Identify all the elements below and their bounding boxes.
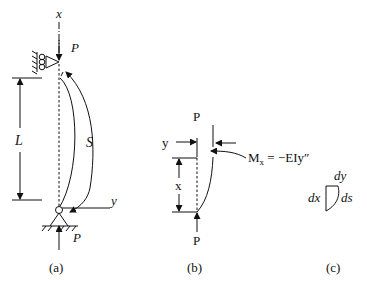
top-load-label: P xyxy=(70,40,79,55)
arc-length-label: S xyxy=(86,135,93,150)
moment-equation: Mx = −EIy″ xyxy=(248,150,309,167)
deflected-column xyxy=(59,78,75,208)
caption-a: (a) xyxy=(49,260,63,275)
length-label: L xyxy=(14,133,23,148)
x-axis-label: x xyxy=(55,6,62,21)
dy-label: dy xyxy=(334,168,347,183)
top-tick xyxy=(61,72,63,76)
moment-arrow xyxy=(211,151,246,158)
y-axis-label: y xyxy=(109,193,117,208)
ds-label: ds xyxy=(341,190,353,205)
caption-c: (c) xyxy=(326,260,340,275)
roller-support-icon xyxy=(32,51,59,74)
caption-b: (b) xyxy=(187,260,202,275)
panel-a: x P S L xyxy=(12,6,117,275)
differential-element xyxy=(326,186,339,211)
column-buckling-diagram: x P S L xyxy=(0,0,367,285)
panel-c: dy dx ds (c) xyxy=(308,168,353,275)
arc-length-arrow-top xyxy=(66,72,93,188)
dx-label: dx xyxy=(308,190,321,205)
x-dim-label: x xyxy=(175,178,182,193)
top-load-label: P xyxy=(193,109,200,124)
panel-b: P y x P Mx = −EIy″ (b) xyxy=(162,109,309,275)
bottom-load-label: P xyxy=(72,230,81,245)
bottom-load-label: P xyxy=(193,233,200,248)
y-dim-label: y xyxy=(162,135,169,150)
deflected-segment xyxy=(197,157,213,212)
